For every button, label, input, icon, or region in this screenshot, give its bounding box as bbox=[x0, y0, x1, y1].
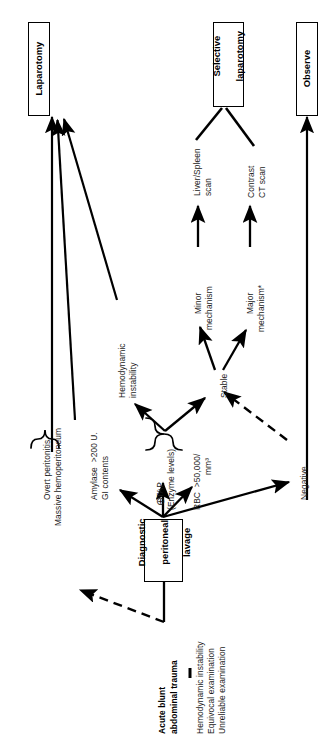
label-contrast-ct-scan-line1: Contrast bbox=[246, 166, 256, 198]
label-liver-spleen-scan-line1: Liver/Spleen bbox=[192, 148, 202, 196]
edge-brace-to-stable bbox=[165, 398, 205, 431]
label-acute-blunt-trauma-line2: abdominal trauma bbox=[169, 660, 179, 734]
label-criteria-unreliable-examination: Unreliable examination bbox=[217, 647, 227, 734]
label-stable: Stable bbox=[219, 374, 229, 398]
label-minor-mechanism-line2: mechanism bbox=[204, 286, 214, 330]
selective-laparotomy-line2: laparotomy bbox=[234, 31, 245, 82]
edge-trauma-to-peritonitis bbox=[80, 590, 164, 622]
box-laparotomy-label: Laparotomy bbox=[33, 42, 44, 96]
label-rbc: RBC >50,000/ bbox=[192, 454, 202, 510]
edge-stable-to-major bbox=[223, 330, 246, 370]
dpl-line2: peritoneal bbox=[158, 520, 169, 565]
label-acute-blunt-trauma-line1: Acute blunt bbox=[157, 687, 167, 734]
selective-laparotomy-line1: Selective bbox=[212, 36, 223, 77]
dpl-line3: lavage bbox=[180, 528, 191, 557]
label-contrast-ct-scan-line2: CT scan bbox=[257, 166, 267, 198]
label-gi-contents: GI contents bbox=[100, 456, 110, 500]
edge-dpl-to-negative bbox=[163, 482, 289, 517]
edge-hemodynamic-to-laparotomy bbox=[64, 119, 117, 300]
box-dpl-label: Diagnostic peritoneal lavage bbox=[124, 519, 202, 583]
edge-amylase-to-laparotomy bbox=[58, 120, 76, 420]
label-major-mechanism-line2: mechanism* bbox=[256, 285, 266, 332]
label-negative: Negative bbox=[299, 466, 309, 500]
plus-sign-icon: ⊕ bbox=[155, 497, 165, 506]
box-selective-laparotomy-label: Selective laparotomy bbox=[200, 31, 256, 97]
edge-contrastct-to-selective bbox=[226, 108, 254, 146]
box-laparotomy[interactable]: Laparotomy bbox=[28, 22, 50, 116]
label-massive-hemoperitoneum: Massive hemoperitoneum bbox=[53, 428, 63, 526]
diagram-canvas: Laparotomy Selective laparotomy Observe … bbox=[0, 0, 333, 745]
label-major-mechanism-line1: Major bbox=[245, 293, 255, 314]
brace-enzyme-group-lower bbox=[164, 434, 182, 450]
edge-stable-to-minor bbox=[200, 327, 215, 370]
label-criteria-equivocal-examination: Equivocal examination bbox=[206, 648, 216, 734]
box-observe[interactable]: Observe bbox=[296, 22, 318, 116]
label-hemodynamic-instability-line2: instability bbox=[128, 362, 138, 398]
label-criteria-hemodynamic-instability: Hemodynamic instability bbox=[195, 641, 205, 734]
box-selective-laparotomy[interactable]: Selective laparotomy bbox=[213, 22, 244, 107]
label-liver-spleen-scan-line2: scan bbox=[203, 178, 213, 196]
label-overt-peritonitis: Overt peritonitis bbox=[42, 440, 52, 500]
box-observe-label: Observe bbox=[301, 50, 312, 88]
label-amylase: Amylase >200 U. bbox=[89, 432, 99, 500]
edge-brace-to-hemodynamic bbox=[135, 404, 165, 431]
edge-negative-to-stable bbox=[224, 392, 287, 440]
edge-liverspleen-to-selective bbox=[196, 108, 222, 140]
box-diagnostic-peritoneal-lavage[interactable]: Diagnostic peritoneal lavage bbox=[144, 519, 183, 582]
label-tap: TAP bbox=[155, 482, 165, 498]
dpl-line1: Diagnostic bbox=[136, 519, 147, 567]
label-hemodynamic-instability-line1: Hemodynamic bbox=[117, 343, 127, 398]
label-minor-mechanism-line1: Minor bbox=[193, 293, 203, 314]
label-rbc-units: mm³ bbox=[203, 458, 213, 475]
label-enzyme-levels: (Enzyme levels) bbox=[166, 449, 176, 510]
